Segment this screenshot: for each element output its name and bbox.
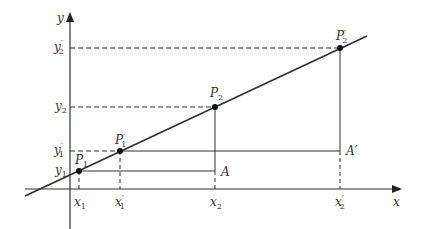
x-tick-x2: x2 (210, 195, 222, 211)
y-tick-y2prime: y′2 (53, 39, 64, 56)
x-tick-x1: x1 (74, 195, 86, 211)
x-tick-x2prime: x′2 (335, 194, 345, 211)
label-a: A (220, 165, 230, 179)
label-p2: P2 (209, 86, 223, 102)
y-tick-y1: y1 (54, 163, 67, 179)
y-tick-y1prime: y′1 (53, 142, 64, 159)
y-axis-label: y (56, 11, 64, 25)
x-axis-label: x (393, 195, 400, 209)
y-tick-y2: y2 (54, 99, 67, 115)
point-p2prime (337, 45, 343, 51)
linear-transformation-diagram: y x P1 P′1 P2 P′2 A A′ x1 x′1 x2 x′2 y′2… (0, 0, 421, 229)
point-p2 (212, 104, 218, 110)
label-p2prime: P′2 (335, 29, 347, 45)
point-p1 (76, 168, 82, 174)
x-tick-x1prime: x′1 (115, 194, 125, 211)
label-p1prime: P′1 (114, 133, 126, 149)
label-aprime: A′ (345, 144, 358, 158)
label-p1: P1 (74, 153, 88, 169)
